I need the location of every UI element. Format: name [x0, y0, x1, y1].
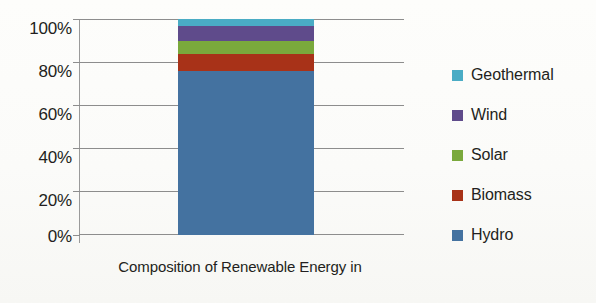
- legend-label-wind: Wind: [471, 107, 507, 123]
- legend-swatch-wind: [452, 110, 463, 121]
- legend-label-hydro: Hydro: [471, 227, 513, 243]
- legend-label-solar: Solar: [471, 147, 508, 163]
- legend-label-geothermal: Geothermal: [471, 67, 554, 83]
- legend-item-geothermal[interactable]: Geothermal: [452, 55, 596, 95]
- stacked-bar-chart: 100% 80% 60% 40% 20% 0% Composition of R…: [0, 0, 596, 303]
- legend-swatch-hydro: [452, 230, 463, 241]
- stacked-bar-column[interactable]: [178, 19, 314, 235]
- bar-segment-biomass[interactable]: [178, 54, 314, 71]
- x-axis-title: Composition of Renewable Energy in: [60, 258, 420, 276]
- legend-item-biomass[interactable]: Biomass: [452, 175, 596, 215]
- legend-swatch-solar: [452, 150, 463, 161]
- bar-segment-hydro[interactable]: [178, 71, 314, 235]
- y-tick-label-20: 20%: [6, 192, 72, 209]
- y-tick-label-60: 60%: [6, 106, 72, 123]
- plot-area: [79, 19, 404, 235]
- legend-item-hydro[interactable]: Hydro: [452, 215, 596, 255]
- y-tick-label-40: 40%: [6, 149, 72, 166]
- legend-swatch-geothermal: [452, 70, 463, 81]
- y-axis-tick-0: [73, 235, 80, 236]
- legend-swatch-biomass: [452, 190, 463, 201]
- legend-item-solar[interactable]: Solar: [452, 135, 596, 175]
- legend: Geothermal Wind Solar Biomass Hydro: [452, 55, 596, 255]
- bar-segment-wind[interactable]: [178, 26, 314, 41]
- y-tick-label-100: 100%: [6, 20, 72, 37]
- y-tick-label-0: 0%: [6, 228, 72, 245]
- bar-segment-solar[interactable]: [178, 41, 314, 54]
- y-tick-label-80: 80%: [6, 63, 72, 80]
- legend-item-wind[interactable]: Wind: [452, 95, 596, 135]
- legend-label-biomass: Biomass: [471, 187, 532, 203]
